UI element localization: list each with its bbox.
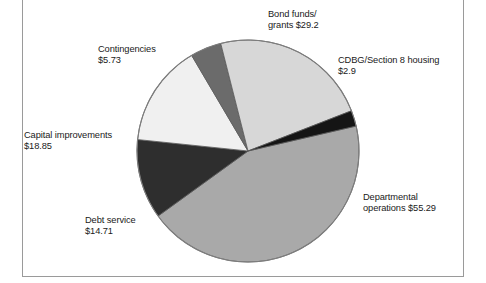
slice-label-debt-service: Debt service $14.71 [85,215,185,238]
slice-label-capital-improvements: Capital improvements $18.85 [24,130,156,153]
pie-chart-figure: Bond funds/ grants $29.2 CDBG/Section 8 … [0,0,486,283]
slice-label-cdbg-section-8-housing: CDBG/Section 8 housing $2.9 [338,55,484,78]
slice-label-contingencies: Contingencies $5.73 [98,44,208,67]
slice-label-bond-funds: Bond funds/ grants $29.2 [268,9,388,32]
slice-label-departmental-operations: Departmental operations $55.29 [363,192,483,215]
